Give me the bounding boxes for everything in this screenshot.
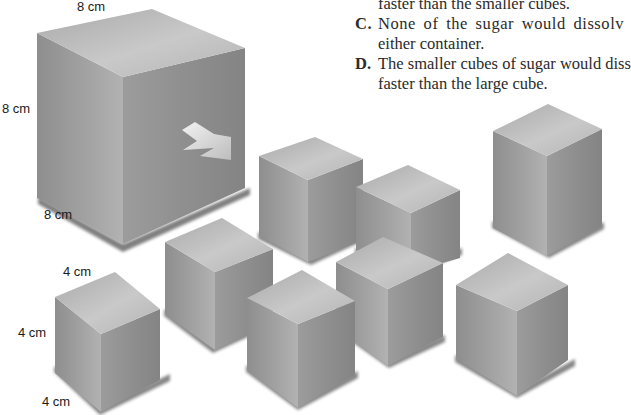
labeled-small-cube xyxy=(54,272,170,415)
small-cube xyxy=(455,253,575,398)
small-cube xyxy=(492,104,604,258)
small-cube-top-label: 4 cm xyxy=(63,265,91,278)
option-c[interactable]: C.None of the sugar would dissolv xyxy=(355,14,631,34)
large-cube-side-label: 8 cm xyxy=(2,102,30,115)
small-cube-side-label: 4 cm xyxy=(18,326,46,339)
option-b-continuation: faster than the smaller cubes. xyxy=(355,0,631,14)
option-c-text-line1: None of the sugar would dissolv xyxy=(378,14,624,33)
option-d-letter: D. xyxy=(355,54,378,74)
large-cube-top-label: 8 cm xyxy=(77,0,105,13)
answer-options: faster than the smaller cubes. C.None of… xyxy=(355,0,631,94)
small-cube xyxy=(258,137,365,265)
option-c-text-line2: either container. xyxy=(355,34,631,54)
option-c-letter: C. xyxy=(355,14,378,34)
option-d-text-line2: faster than the large cube. xyxy=(355,74,631,94)
option-d-text-line1: The smaller cubes of sugar would diss xyxy=(378,54,631,73)
option-d[interactable]: D.The smaller cubes of sugar would diss xyxy=(355,54,631,74)
small-cube-depth-label: 4 cm xyxy=(42,395,70,408)
large-cube-depth-label: 8 cm xyxy=(44,208,72,221)
